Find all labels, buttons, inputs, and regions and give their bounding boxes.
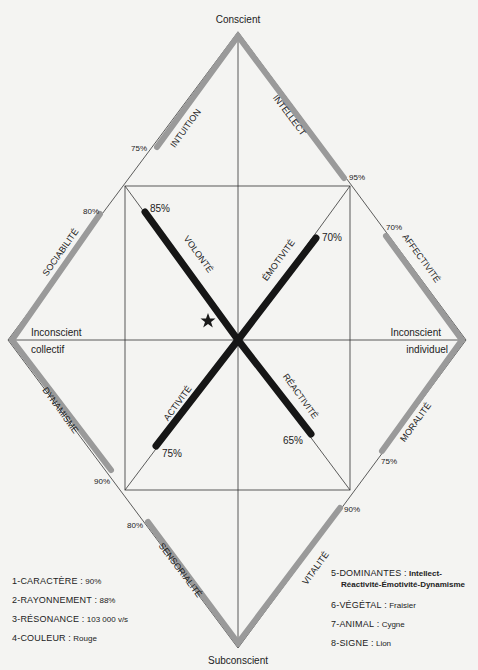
axis-vitalite-value: 90% <box>344 505 360 514</box>
bar-volonte <box>145 212 238 340</box>
axis-emotivite-value: 70% <box>322 232 342 243</box>
axis-reactivite-label: RÉACTIVITÉ <box>281 372 320 421</box>
pole-right-label-2: individuel <box>406 344 448 355</box>
legend-item-animal: 7-ANIMAL : Cygne <box>331 615 465 634</box>
axis-dynamisme-label: DYNAMISME <box>40 385 80 435</box>
axis-intellect-value: 95% <box>349 173 365 182</box>
axis-sensorialite-value: 80% <box>127 521 143 530</box>
axis-moralite-value: 75% <box>381 457 397 466</box>
legend-left: 1-CARACTÈRE : 90% 2-RAYONNEMENT : 88% 3-… <box>12 572 128 648</box>
legend-item-vegetal: 6-VÉGÉTAL : Fraisier <box>331 596 465 615</box>
axis-intellect-label: INTELLECT <box>271 93 308 138</box>
axis-activite-value: 75% <box>162 448 182 459</box>
axis-dynamisme-value: 90% <box>94 477 110 486</box>
axis-emotivite-label: ÉMOTIVITÉ <box>260 238 297 283</box>
axis-affectivite-value: 70% <box>386 223 402 232</box>
pole-right-label-1: Inconscient <box>390 327 441 338</box>
axis-sociabilite-value: 80% <box>83 207 99 216</box>
axis-volonte-value: 85% <box>150 203 170 214</box>
pole-bottom-label: Subconscient <box>208 655 268 666</box>
pole-left-label-2: collectif <box>31 344 65 355</box>
legend-item-resonance: 3-RÉSONANCE : 103 000 v/s <box>12 610 128 629</box>
legend-item-signe: 8-SIGNE : Lion <box>331 634 465 653</box>
axis-reactivite-value: 65% <box>283 435 303 446</box>
legend-right: 5-DOMINANTES : Intellect- Réactivité-Émo… <box>331 567 465 653</box>
legend-item-rayonnement: 2-RAYONNEMENT : 88% <box>12 591 128 610</box>
axis-sensorialite-label: SENSORIALITÉ <box>157 541 204 599</box>
legend-item-dominantes: 5-DOMINANTES : Intellect- <box>331 567 465 580</box>
star-icon <box>201 313 216 328</box>
legend-item-dominantes-cont: Réactivité-Émotivité-Dynamisme <box>331 580 465 590</box>
pole-top-label: Conscient <box>216 14 261 25</box>
legend-item-couleur: 4-COULEUR : Rouge <box>12 629 128 648</box>
bar-intuition-intellect <box>157 36 344 178</box>
bar-activite <box>156 340 238 446</box>
axis-intuition-value: 75% <box>131 144 147 153</box>
axis-affectivite-label: AFFECTIVITÉ <box>400 232 442 284</box>
pole-left-label-1: Inconscient <box>31 327 82 338</box>
legend-item-caractere: 1-CARACTÈRE : 90% <box>12 572 128 591</box>
